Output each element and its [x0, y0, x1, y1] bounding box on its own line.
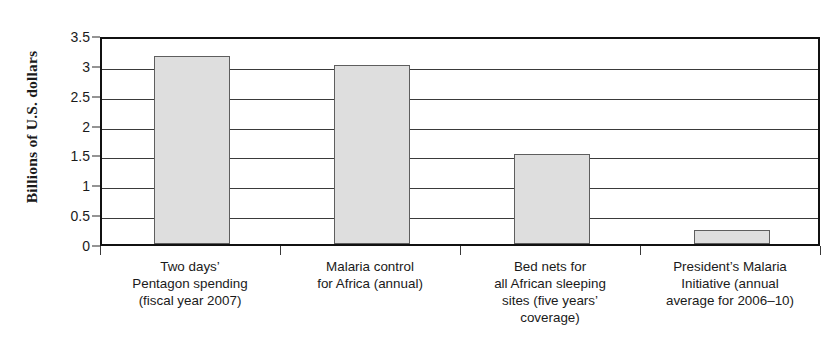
y-axis-title: Billions of U.S. dollars [23, 0, 41, 257]
category-tick [280, 246, 281, 255]
category-label: Two days’Pentagon spending(fiscal year 2… [100, 258, 280, 309]
y-axis-tick-mark [92, 186, 100, 187]
y-axis-tick-mark [92, 96, 100, 97]
category-label: Bed nets forall African sleepingsites (f… [460, 258, 640, 326]
y-axis-tick-label: 1 [44, 178, 90, 194]
category-tick [640, 246, 641, 255]
plot-area [100, 37, 820, 246]
category-label: Malaria controlfor Africa (annual) [280, 258, 460, 292]
y-axis-tick-mark [92, 126, 100, 127]
y-axis-tick-mark [92, 216, 100, 217]
y-axis-tick-label: 1.5 [44, 148, 90, 164]
category-label-line: Initiative (annual [640, 275, 820, 292]
category-tick [820, 246, 821, 255]
y-axis-tick-label: 0 [44, 238, 90, 254]
category-tick [100, 246, 101, 255]
y-axis-tick-mark [92, 66, 100, 67]
y-axis-tick-mark [92, 156, 100, 157]
bar [514, 154, 590, 244]
category-label: President’s MalariaInitiative (annualave… [640, 258, 820, 309]
category-label-line: President’s Malaria [640, 258, 820, 275]
y-axis-tick-mark [92, 37, 100, 38]
category-label-line: for Africa (annual) [280, 275, 460, 292]
y-axis-tick-label: 0.5 [44, 208, 90, 224]
y-axis-tick-label: 2.5 [44, 89, 90, 105]
y-axis-tick-label: 3.5 [44, 29, 90, 45]
y-axis-tick-label: 3 [44, 59, 90, 75]
category-label-line: coverage) [460, 309, 640, 326]
category-tick [460, 246, 461, 255]
category-label-line: all African sleeping [460, 275, 640, 292]
bar [694, 230, 770, 244]
category-label-line: Malaria control [280, 258, 460, 275]
y-axis-tick-mark [92, 246, 100, 247]
bar [154, 56, 230, 244]
category-label-line: Pentagon spending [100, 275, 280, 292]
bar [334, 65, 410, 244]
y-axis-tick-labels: 00.511.522.533.5 [44, 0, 90, 361]
category-label-line: (fiscal year 2007) [100, 292, 280, 309]
y-axis-tick-label: 2 [44, 119, 90, 135]
category-label-line: Two days’ [100, 258, 280, 275]
category-label-line: sites (five years’ [460, 292, 640, 309]
bar-chart-figure: Billions of U.S. dollars 00.511.522.533.… [0, 0, 840, 361]
category-label-line: average for 2006–10) [640, 292, 820, 309]
category-label-line: Bed nets for [460, 258, 640, 275]
